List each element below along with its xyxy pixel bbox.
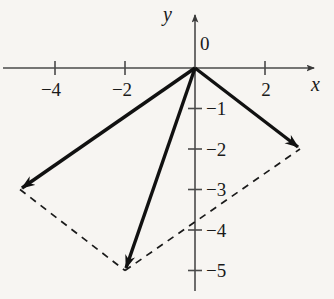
dashed-side-right xyxy=(125,149,300,271)
y-tick-label-minus4: −4 xyxy=(206,221,226,240)
x-tick-label-minus2: −2 xyxy=(112,80,132,99)
x-axis-label: x xyxy=(311,74,320,94)
y-axis-label: y xyxy=(163,4,172,24)
x-tick-label-minus4: −4 xyxy=(41,80,61,99)
y-tick-label-minus3: −3 xyxy=(206,180,226,199)
origin-label: 0 xyxy=(200,34,210,53)
vector-sum-arrow xyxy=(126,68,195,268)
x-tick-label-2: 2 xyxy=(261,80,271,99)
dashed-side-left xyxy=(20,190,125,271)
y-tick-label-minus1: −1 xyxy=(206,99,226,118)
y-tick-label-minus2: −2 xyxy=(206,140,226,159)
vector-diagram-figure: y x 0 −4 −2 2 −1 −2 −3 −4 −5 xyxy=(0,0,334,299)
coordinate-plane-svg xyxy=(0,0,334,299)
y-tick-label-minus5: −5 xyxy=(206,261,226,280)
vectors xyxy=(22,68,298,268)
